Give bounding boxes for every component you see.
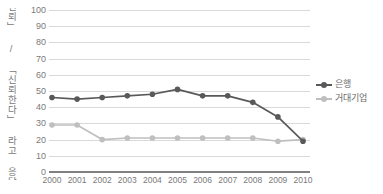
y-tick-label: 80 [20,38,46,47]
y-axis-tick-labels: 0102030405060708090100 [18,0,46,194]
plot-area [49,10,310,172]
series-plot [49,10,310,172]
y-tick-label: 30 [20,119,46,128]
data-point [125,93,131,99]
chart-legend: 은행 거대기업 [316,78,382,106]
x-tick-label: 2004 [143,175,162,185]
data-point [275,114,281,120]
legend-marker-icon-1 [316,93,332,104]
data-point [99,95,105,101]
legend-label-0: 은행 [332,79,351,90]
x-tick-label: 2007 [218,175,237,185]
y-tick-label: 10 [20,151,46,160]
series-line [52,89,303,141]
x-tick-label: 2005 [168,175,187,185]
x-tick-label: 2001 [68,175,87,185]
data-point [74,96,80,102]
x-tick-label: 2000 [43,175,62,185]
y-tick-label: 90 [20,22,46,31]
data-point [150,135,156,141]
x-tick-label: 2006 [193,175,212,185]
data-point [175,87,181,93]
data-point [250,100,256,106]
data-point [175,135,181,141]
data-point [49,95,55,101]
x-tick-label: 2002 [93,175,112,185]
line-chart: 「매우 신뢰」 / 「신뢰한다」 라고 응답한 비율 0102030405060… [0,0,383,194]
x-tick-label: 2008 [243,175,262,185]
data-point [200,93,206,99]
legend-marker-icon-0 [316,79,332,90]
y-tick-label: 40 [20,103,46,112]
legend-item-0[interactable]: 은행 [316,78,382,91]
y-tick-label: 100 [20,6,46,15]
y-tick-label: 60 [20,70,46,79]
x-tick-label: 2009 [268,175,287,185]
x-tick-label: 2003 [118,175,137,185]
data-point [250,135,256,141]
x-axis-tick-labels: 2000200120022003200420052006200720082009… [49,175,310,189]
data-point [275,138,281,144]
y-tick-label: 20 [20,135,46,144]
data-point [49,122,55,128]
y-tick-label: 70 [20,54,46,63]
data-point [125,135,131,141]
data-point [99,137,105,143]
x-axis-line [49,171,310,173]
data-point [225,93,231,99]
legend-item-1[interactable]: 거대기업 [316,92,382,105]
data-point [300,138,306,144]
data-point [225,135,231,141]
data-point [74,122,80,128]
y-tick-label: 50 [20,87,46,96]
data-point [200,135,206,141]
x-tick-label: 2010 [294,175,313,185]
legend-label-1: 거대기업 [332,93,367,104]
data-point [150,91,156,97]
